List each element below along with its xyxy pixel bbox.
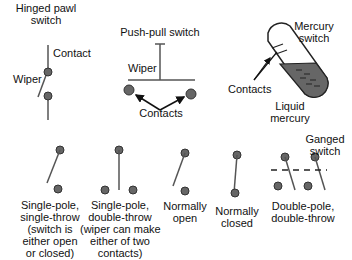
- dpdt-caption: Double-pole,double-throw: [268, 200, 338, 224]
- normally-closed-caption: Normallyclosed: [212, 205, 262, 229]
- push-pull-contacts-label: Contacts: [130, 107, 192, 119]
- spst-symbol: [47, 146, 64, 193]
- mercury-switch-title: Mercuryswitch: [286, 20, 342, 44]
- push-pull-title: Push-pull switch: [118, 26, 202, 38]
- spdt-symbol: [101, 146, 137, 194]
- normally-closed-symbol: [231, 151, 241, 197]
- push-pull-switch-symbol: [124, 44, 196, 110]
- hinged-pawl-title: Hinged pawlswitch: [8, 2, 84, 26]
- normally-open-caption: Normallyopen: [160, 200, 210, 224]
- push-pull-wiper-label: Wiper: [128, 62, 157, 74]
- spst-caption: Single-pole,single-throw(switch iseither…: [18, 199, 82, 259]
- ganged-switch-label: Gangedswitch: [300, 133, 350, 157]
- normally-open-symbol: [173, 149, 189, 195]
- liquid-mercury-label: Liquidmercury: [265, 100, 315, 124]
- spdt-caption: Single-pole,double-throw(wiper can makee…: [80, 199, 160, 259]
- hinged-pawl-contact-label: Contact: [53, 47, 91, 59]
- mercury-contacts-label: Contacts: [228, 83, 271, 95]
- dpdt-symbol: [271, 153, 327, 190]
- hinged-pawl-wiper-label: Wiper: [13, 73, 42, 85]
